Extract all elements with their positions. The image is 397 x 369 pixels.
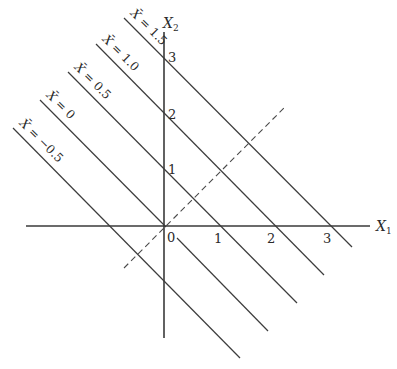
x1-axis-label: X1 xyxy=(375,218,392,236)
label-xbar-1.0: X̄ = 1.0 xyxy=(99,31,143,75)
label-xbar-0.5: X̄ = 0.5 xyxy=(71,59,115,103)
level-lines-diagram: X1 X2 1 2 3 1 2 3 0 X̄ = −0.5 X̄ = 0 X̄ … xyxy=(0,0,397,369)
svg-text:X̄ = 0: X̄ = 0 xyxy=(43,87,78,122)
x2-tick-1: 1 xyxy=(168,162,176,177)
svg-text:X̄ = 0.5: X̄ = 0.5 xyxy=(71,59,115,103)
label-xbar-0: X̄ = 0 xyxy=(43,87,78,122)
level-line-1.0 xyxy=(96,44,324,275)
origin-label: 0 xyxy=(167,230,175,245)
x1-tick-1: 1 xyxy=(214,231,222,246)
dashed-diagonal-line xyxy=(124,108,284,268)
level-line-0.5 xyxy=(68,72,297,303)
x2-axis-label: X2 xyxy=(162,15,179,33)
level-line-1.5 xyxy=(124,18,352,247)
x1-tick-2: 2 xyxy=(267,231,275,246)
svg-text:X̄ = 1.0: X̄ = 1.0 xyxy=(99,31,143,75)
x2-tick-2: 2 xyxy=(168,107,176,122)
level-line-0-lower xyxy=(177,238,268,331)
x1-tick-3: 3 xyxy=(323,231,331,246)
level-line-0 xyxy=(40,100,166,227)
x2-tick-3: 3 xyxy=(168,50,176,65)
level-line-neg0.5 xyxy=(13,128,240,358)
